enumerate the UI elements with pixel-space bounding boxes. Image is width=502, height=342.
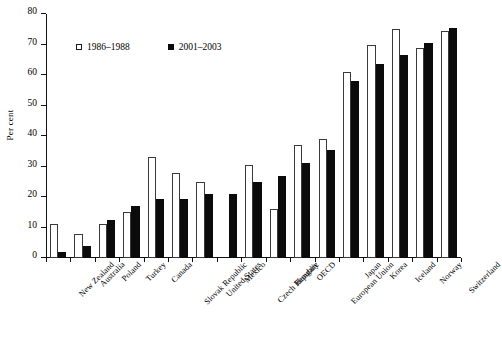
bar-series2 <box>351 81 359 258</box>
x-axis-label: Iceland <box>413 260 437 284</box>
y-tick: 30 <box>41 166 46 167</box>
bar-series1 <box>172 173 180 258</box>
bar-series2 <box>376 64 384 258</box>
y-tick: 80 <box>41 13 46 14</box>
bar-series2 <box>449 28 457 258</box>
y-axis-line <box>46 14 47 259</box>
bar-group <box>74 14 90 258</box>
bar-series2 <box>180 199 188 258</box>
bar-series2 <box>424 43 432 258</box>
y-tick-label: 20 <box>28 189 38 199</box>
bar-group <box>392 14 408 258</box>
x-axis-label: Canada <box>169 260 193 284</box>
y-tick-label: 0 <box>32 250 37 260</box>
bar-series1 <box>343 72 351 258</box>
bar-group <box>367 14 383 258</box>
x-tick <box>461 258 462 262</box>
x-axis-label: Norway <box>438 260 464 286</box>
y-tick-label: 40 <box>28 128 38 138</box>
bar-group <box>221 14 237 258</box>
bar-group <box>148 14 164 258</box>
bar-series1 <box>392 29 400 258</box>
y-tick: 10 <box>41 227 46 228</box>
y-tick-label: 60 <box>28 67 38 77</box>
bar-group <box>343 14 359 258</box>
bar-series2 <box>253 182 261 258</box>
bar-group <box>50 14 66 258</box>
bar-group <box>416 14 432 258</box>
bar-series2 <box>278 176 286 258</box>
bar-series1 <box>196 182 204 258</box>
y-axis-title: Per cent <box>5 93 15 157</box>
y-tick-label: 50 <box>28 98 38 108</box>
y-tick-label: 70 <box>28 37 38 47</box>
bar-series2 <box>156 199 164 258</box>
y-tick: 60 <box>41 74 46 75</box>
bar-series2 <box>302 163 310 258</box>
y-tick: 20 <box>41 196 46 197</box>
bar-series1 <box>148 157 156 258</box>
bar-series2 <box>131 206 139 258</box>
bar-series2 <box>205 194 213 258</box>
bar-group <box>245 14 261 258</box>
y-tick: 40 <box>41 135 46 136</box>
y-tick: 70 <box>41 44 46 45</box>
bar-series1 <box>50 224 58 258</box>
bar-series2 <box>83 246 91 258</box>
x-axis-label: Turkey <box>145 260 169 284</box>
bar-series1 <box>441 31 449 258</box>
y-tick-label: 80 <box>28 6 38 16</box>
bar-series2 <box>229 194 237 258</box>
y-tick-label: 10 <box>28 220 38 230</box>
plot-area: 01020304050607080 <box>46 14 461 258</box>
bar-series1 <box>99 224 107 258</box>
bar-series1 <box>270 209 278 258</box>
bar-series2 <box>107 220 115 258</box>
x-axis-labels: New ZealandAustraliaPolandTurkeyCanadaSl… <box>46 260 461 342</box>
bar-group <box>123 14 139 258</box>
bar-group <box>319 14 335 258</box>
bar-group <box>172 14 188 258</box>
bar-group <box>270 14 286 258</box>
bar-series2 <box>400 55 408 258</box>
bar-series2 <box>58 252 66 258</box>
bar-series2 <box>327 150 335 258</box>
y-tick: 50 <box>41 105 46 106</box>
bar-series1 <box>74 234 82 258</box>
bar-group <box>294 14 310 258</box>
x-axis-label: Switzerland <box>467 260 502 295</box>
y-tick-label: 30 <box>28 159 38 169</box>
bar-series1 <box>416 48 424 258</box>
bar-series1 <box>123 212 131 258</box>
bar-group <box>196 14 212 258</box>
bar-series1 <box>367 45 375 259</box>
bar-series1 <box>319 139 327 258</box>
bar-group <box>441 14 457 258</box>
bar-group <box>99 14 115 258</box>
bar-series1 <box>245 165 253 258</box>
bar-series1 <box>294 145 302 258</box>
